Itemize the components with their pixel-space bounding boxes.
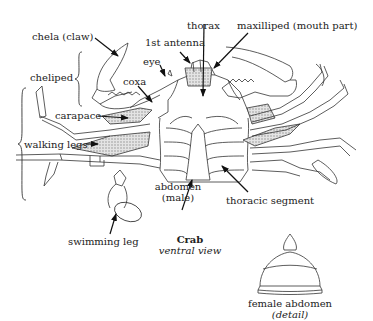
thorax-shade — [185, 68, 212, 86]
diagram-subtitle: ventral view — [150, 245, 230, 256]
label-detail: (detail) — [245, 309, 335, 320]
label-swimming-leg: swimming leg — [68, 236, 139, 247]
female-abdomen-caption: female abdomen (detail) — [245, 298, 335, 320]
label-male: (male) — [154, 192, 202, 203]
label-maxilliped: maxilliped (mouth part) — [237, 20, 357, 31]
label-carapace: carapace — [55, 110, 101, 121]
label-abdomen: abdomen — [154, 181, 202, 192]
label-eye: eye — [143, 56, 161, 67]
crab-diagram: chela (claw) cheliped eye 1st antenna th… — [0, 0, 373, 321]
label-walking-legs: walking legs — [24, 139, 88, 150]
label-first-antenna: 1st antenna — [145, 37, 205, 48]
female-abdomen-drawing — [258, 234, 322, 295]
eye — [168, 70, 172, 76]
right-walking-legs — [250, 64, 356, 184]
swimming-leg — [108, 170, 144, 225]
label-coxa: coxa — [123, 76, 146, 87]
carapace-shade-left — [102, 108, 152, 124]
diagram-title-block: Crab ventral view — [150, 234, 230, 256]
label-cheliped: cheliped — [30, 72, 73, 83]
cheliped-brace — [75, 52, 82, 106]
carapace-shade-right — [247, 104, 275, 124]
label-thorax: thorax — [187, 20, 220, 31]
crab-drawing — [0, 0, 373, 321]
label-female-abdomen: female abdomen — [245, 298, 335, 309]
first-antenna-arrow — [180, 52, 190, 63]
diagram-title: Crab — [150, 234, 230, 245]
label-thoracic-segment: thoracic segment — [226, 195, 314, 206]
label-abdomen-male: abdomen (male) — [154, 181, 202, 203]
label-chela: chela (claw) — [32, 31, 93, 42]
swimming-leg-arrow — [110, 214, 116, 234]
chela-arrow — [95, 38, 118, 56]
maxilliped-arrow — [214, 33, 248, 68]
